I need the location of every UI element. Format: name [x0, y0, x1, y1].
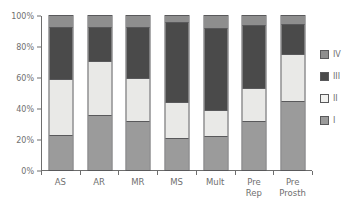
bar-segment-iii[interactable] [166, 22, 189, 102]
bar-slot [119, 16, 158, 170]
legend: IVIIIIII [320, 50, 341, 125]
x-tick-mark [196, 171, 197, 175]
bar-segment-i[interactable] [50, 135, 73, 170]
x-tick-mark [118, 171, 119, 175]
y-tick-label: 100% [11, 12, 34, 21]
y-axis: 0%20%40%60%80%100% [0, 0, 41, 171]
stacked-bar[interactable] [204, 16, 227, 170]
y-tick-label: 60% [16, 74, 34, 83]
x-tick-mark [157, 171, 158, 175]
bar-segment-ii[interactable] [88, 61, 111, 115]
stacked-bar[interactable] [166, 16, 189, 170]
x-tick-mark [41, 171, 42, 175]
bar-segment-iii[interactable] [50, 27, 73, 79]
bar-segment-i[interactable] [243, 121, 266, 170]
legend-label: I [333, 116, 335, 125]
bar-slot [196, 16, 235, 170]
legend-item-iv[interactable]: IV [320, 50, 341, 59]
legend-item-i[interactable]: I [320, 116, 341, 125]
y-tick-label: 40% [16, 105, 34, 114]
bar-segment-iii[interactable] [127, 27, 150, 78]
stacked-bar[interactable] [127, 16, 150, 170]
bar-segment-ii[interactable] [166, 102, 189, 137]
bar-slot [235, 16, 274, 170]
x-tick-label: Pre Prosth [270, 177, 316, 199]
bar-slot [81, 16, 120, 170]
legend-swatch-icon [320, 94, 329, 103]
bar-segment-iii[interactable] [281, 24, 304, 55]
bar-segment-ii[interactable] [204, 110, 227, 136]
y-tick-label: 0% [21, 167, 34, 176]
bar-slot [42, 16, 81, 170]
bar-segment-iii[interactable] [204, 28, 227, 110]
bar-segment-iv[interactable] [50, 16, 73, 27]
plot-frame [41, 16, 312, 171]
legend-swatch-icon [320, 116, 329, 125]
bar-slot [158, 16, 197, 170]
plot-area [42, 16, 312, 170]
bar-segment-i[interactable] [88, 115, 111, 170]
x-tick-mark [80, 171, 81, 175]
bar-segment-ii[interactable] [281, 54, 304, 100]
bar-segment-ii[interactable] [50, 79, 73, 134]
stacked-bar[interactable] [281, 16, 304, 170]
bars-container [42, 16, 312, 170]
x-tick-mark [273, 171, 274, 175]
stacked-bar-chart: 0%20%40%60%80%100% ASARMRMSMultPre RepPr… [0, 0, 359, 205]
bar-segment-iv[interactable] [204, 16, 227, 28]
bar-segment-iii[interactable] [243, 25, 266, 88]
bar-segment-i[interactable] [166, 138, 189, 170]
bar-segment-iv[interactable] [243, 16, 266, 25]
stacked-bar[interactable] [50, 16, 73, 170]
bar-segment-iv[interactable] [88, 16, 111, 27]
legend-label: IV [333, 50, 341, 59]
y-tick-label: 20% [16, 136, 34, 145]
bar-segment-i[interactable] [204, 136, 227, 170]
bar-segment-iv[interactable] [127, 16, 150, 27]
legend-swatch-icon [320, 72, 329, 81]
legend-swatch-icon [320, 50, 329, 59]
stacked-bar[interactable] [88, 16, 111, 170]
x-tick-mark [312, 171, 313, 175]
y-tick-label: 80% [16, 43, 34, 52]
stacked-bar[interactable] [243, 16, 266, 170]
bar-segment-i[interactable] [281, 101, 304, 170]
legend-item-iii[interactable]: III [320, 72, 341, 81]
bar-slot [273, 16, 312, 170]
legend-label: II [333, 94, 338, 103]
bar-segment-iv[interactable] [281, 16, 304, 24]
x-tick-mark [235, 171, 236, 175]
bar-segment-iii[interactable] [88, 27, 111, 61]
bar-segment-i[interactable] [127, 121, 150, 170]
legend-item-ii[interactable]: II [320, 94, 341, 103]
bar-segment-ii[interactable] [127, 78, 150, 121]
legend-label: III [333, 72, 340, 81]
bar-segment-ii[interactable] [243, 88, 266, 120]
